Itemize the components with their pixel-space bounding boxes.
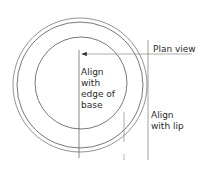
plan-view-label: Plan view — [153, 44, 196, 55]
align-base-line-1: Align — [81, 67, 121, 78]
align-base-label: Align with edge of base — [81, 67, 121, 111]
align-base-line-3: edge of — [81, 89, 121, 100]
align-lip-line-1: Align — [151, 110, 195, 121]
align-base-line-4: base — [81, 100, 121, 111]
align-base-line-2: with — [81, 78, 121, 89]
plan-view-diagram: Plan view Align with edge of base Align … — [0, 0, 201, 170]
align-lip-line-2: with lip — [151, 121, 195, 132]
align-lip-label: Align with lip — [151, 110, 195, 132]
